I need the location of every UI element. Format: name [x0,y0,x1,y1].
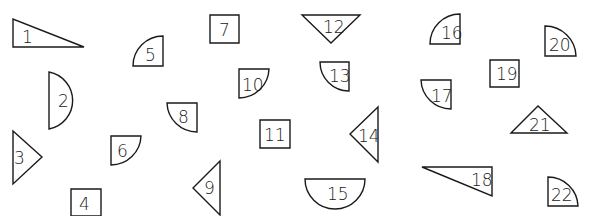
shape-number-label: 13 [329,66,351,86]
shape-number-label: 12 [323,17,345,37]
shape-8-quarter-circle: 8 [167,103,197,132]
shape-number-label: 7 [219,20,230,40]
shape-19-square: 19 [490,60,519,87]
shape-number-label: 20 [549,35,571,55]
shape-14-triangle: 14 [350,107,380,162]
shape-number-label: 5 [145,45,156,65]
shape-number-label: 16 [441,23,463,43]
shape-number-label: 22 [551,185,573,205]
shape-number-label: 8 [178,107,189,127]
shape-number-label: 2 [58,91,69,111]
shape-number-label: 4 [79,194,90,214]
shapes-canvas: 12345678910111213141516171819202122 [0,0,592,216]
shape-number-label: 19 [496,64,518,84]
shape-number-label: 9 [204,178,215,198]
shape-1-right-triangle: 1 [13,19,84,47]
shape-20-quarter-circle: 20 [545,26,576,56]
shape-number-label: 21 [529,115,551,135]
shape-2-half-circle: 2 [49,72,73,129]
shape-number-label: 11 [264,125,286,145]
shape-22-quarter-circle: 22 [548,177,578,206]
shape-15-half-circle: 15 [305,179,365,209]
shape-number-label: 10 [242,75,264,95]
shape-10-quarter-circle: 10 [239,69,269,98]
shape-12-inverted-triangle: 12 [302,15,360,43]
shape-4-square: 4 [71,189,101,216]
shape-number-label: 3 [14,148,25,168]
shape-number-label: 6 [117,141,128,161]
shape-number-label: 1 [22,27,33,47]
shape-17-quarter-circle: 17 [421,80,453,109]
shape-21-triangle: 21 [511,106,567,135]
shape-number-label: 15 [327,184,349,204]
shape-6-quarter-circle: 6 [111,136,141,165]
shape-5-quarter-circle: 5 [133,36,163,66]
shape-number-label: 17 [431,86,453,106]
shape-13-quarter-circle: 13 [320,62,351,91]
shape-number-label: 18 [471,170,493,190]
shape-18-right-triangle: 18 [422,167,493,196]
shape-9-triangle: 9 [193,161,220,215]
shape-3-triangle: 3 [13,131,42,184]
shape-7-square: 7 [210,15,239,43]
shape-number-label: 14 [358,126,380,146]
shape-16-quarter-circle: 16 [430,14,463,44]
shape-11-square: 11 [260,120,290,148]
